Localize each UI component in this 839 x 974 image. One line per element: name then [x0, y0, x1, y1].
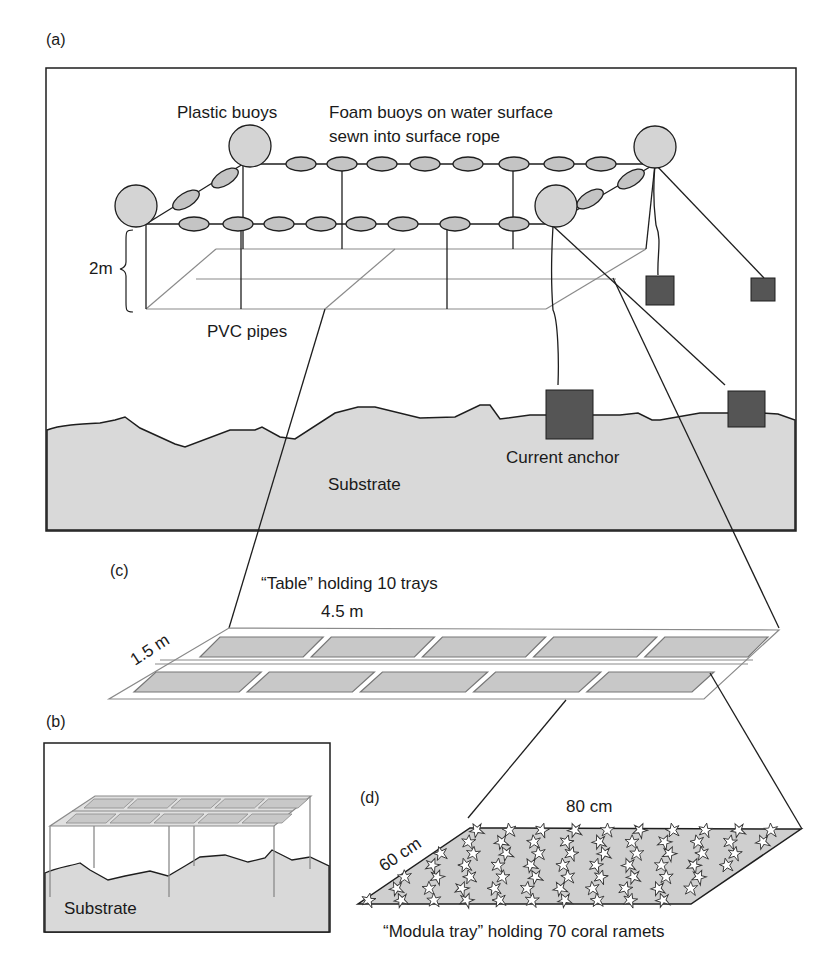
tray [422, 637, 545, 657]
tray [474, 672, 601, 692]
tray [311, 637, 434, 657]
label-substrate-a: Substrate [328, 475, 401, 494]
coral-nursery-diagram: (a) [0, 0, 839, 974]
label-modula-tray: “Modula tray” holding 70 coral ramets [383, 922, 665, 941]
panel-d-tag: (d) [360, 789, 380, 806]
panel-a-tag: (a) [46, 31, 66, 48]
tray [247, 672, 374, 692]
label-current-anchor: Current anchor [506, 448, 620, 467]
tray [200, 637, 323, 657]
table-c [109, 628, 779, 699]
label-foam-buoys-1: Foam buoys on water surface [329, 103, 553, 122]
modula-tray [358, 820, 801, 909]
label-table-length: 4.5 m [321, 602, 364, 621]
label-plastic-buoys: Plastic buoys [177, 103, 277, 122]
label-depth: 2m [89, 259, 113, 278]
tray [134, 672, 261, 692]
panel-c-tag: (c) [110, 562, 129, 579]
panel-b-tag: (b) [46, 713, 66, 730]
tray [645, 637, 768, 657]
label-pvc-pipes: PVC pipes [207, 322, 287, 341]
tray [587, 672, 714, 692]
label-substrate-b: Substrate [64, 899, 137, 918]
label-foam-buoys-2: sewn into surface rope [329, 127, 500, 146]
label-tray-length: 80 cm [566, 797, 612, 816]
tray [360, 672, 487, 692]
tray [534, 637, 657, 657]
label-table: “Table” holding 10 trays [261, 574, 438, 593]
